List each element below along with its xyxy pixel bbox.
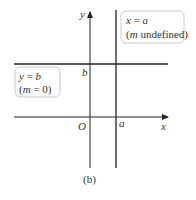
horizontal-slope-note: = 0) [31,83,52,96]
vertical-eq-rhs: a [143,14,149,26]
a-intercept-label: a [119,117,125,129]
horizontal-slope-var: m [23,83,31,95]
svg-text:y = b: y = b [18,70,42,82]
coordinate-diagram: x = a (m undefined) y = b (m = 0) y x O … [0,0,196,200]
b-intercept-label: b [82,66,88,78]
svg-text:(m = 0): (m = 0) [19,83,52,96]
origin-label: O [78,120,86,132]
y-axis-label: y [79,8,85,20]
vertical-slope-note: undefined) [138,28,189,41]
figure-caption: (b) [83,173,96,186]
vertical-slope-var: m [130,28,138,40]
horizontal-eq-rhs: b [36,70,42,82]
svg-text:(m undefined): (m undefined) [126,28,188,41]
x-axis-label: x [160,120,166,132]
svg-text:x = a: x = a [125,14,149,26]
